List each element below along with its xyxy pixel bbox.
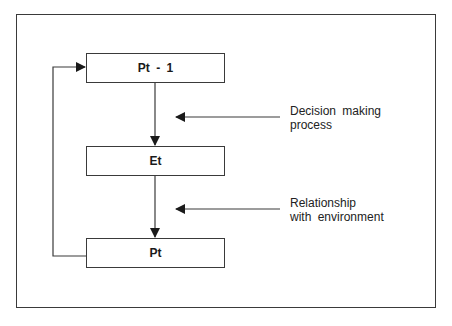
connector-layer bbox=[0, 0, 452, 326]
node-et: Et bbox=[86, 146, 225, 176]
node-pt: Pt bbox=[86, 238, 225, 268]
feedback-loop-arrow bbox=[53, 67, 86, 256]
node-pt-label: Pt bbox=[150, 246, 162, 260]
decision-making-line1: Decision making bbox=[290, 104, 381, 118]
node-p-prev-label: Pt - 1 bbox=[138, 61, 173, 75]
relationship-label: Relationship with environment bbox=[290, 196, 384, 224]
relationship-line1: Relationship bbox=[290, 196, 384, 210]
decision-making-label: Decision making process bbox=[290, 104, 381, 132]
node-et-label: Et bbox=[150, 154, 162, 168]
relationship-line2: with environment bbox=[290, 210, 384, 224]
decision-making-line2: process bbox=[290, 118, 381, 132]
node-p-prev: Pt - 1 bbox=[86, 53, 225, 83]
